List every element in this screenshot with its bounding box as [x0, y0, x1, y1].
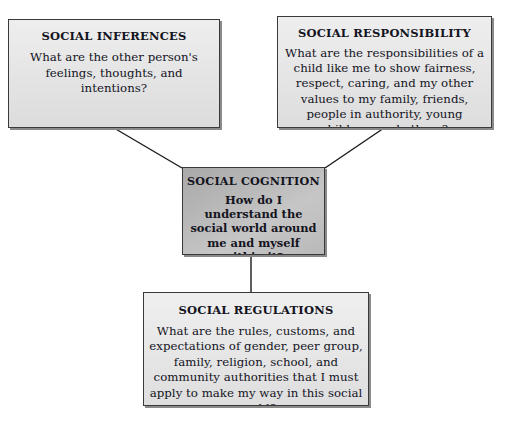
node-body-social-regulations: What are the rules, customs, and expecta… — [149, 324, 363, 406]
connector-inferences-to-cognition — [114, 128, 182, 168]
node-social-regulations: SOCIAL REGULATIONS What are the rules, c… — [143, 292, 369, 406]
node-title-social-inferences: SOCIAL INFERENCES — [15, 29, 213, 43]
node-body-social-responsibility: What are the responsibilities of a child… — [283, 46, 486, 128]
node-social-responsibility: SOCIAL RESPONSIBILITY What are the respo… — [277, 16, 492, 128]
node-social-cognition: SOCIAL COGNITION How do I understand the… — [182, 167, 325, 255]
node-body-social-inferences: What are the other person's feelings, th… — [15, 50, 213, 97]
connector-responsibility-to-cognition — [325, 128, 384, 168]
node-title-social-responsibility: SOCIAL RESPONSIBILITY — [283, 26, 486, 40]
node-body-social-cognition: How do I understand the social world aro… — [187, 193, 320, 255]
node-title-social-cognition: SOCIAL COGNITION — [187, 174, 320, 188]
node-title-social-regulations: SOCIAL REGULATIONS — [149, 303, 363, 317]
concept-map-diagram: SOCIAL INFERENCES What are the other per… — [0, 0, 512, 421]
node-social-inferences: SOCIAL INFERENCES What are the other per… — [8, 19, 220, 128]
